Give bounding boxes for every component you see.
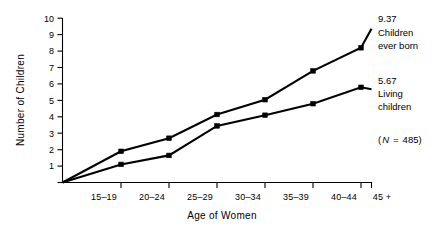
y-tick-label-6: 6 [49,79,54,89]
series-line-living-children [63,87,372,182]
note-symbol-n: N [382,134,389,145]
note-value: 485 [403,134,419,145]
x-axis-category-labels: 15–19 20–24 25–29 30–34 35–39 40–44 45 + [91,192,391,202]
data-point-ceb-35-39 [311,69,316,74]
y-tick-label-1: 1 [49,161,54,171]
x-label-40-44: 40–44 [331,192,357,202]
data-point-ceb-30-34 [263,97,268,102]
data-point-lc-15-19 [119,162,124,167]
annotation-label-lc-line2: children [378,101,411,112]
line-chart-svg: 1 2 3 4 5 6 7 8 9 10 Number of Children … [0,0,447,228]
annotation-label-ceb-line2: ever born [378,40,418,51]
note-close-paren: ) [418,134,421,145]
svg-text:(N=485): (N=485) [378,134,422,145]
data-point-ceb-40-44 [359,46,364,51]
data-point-lc-25-29 [215,124,220,129]
data-point-ceb-20-24 [167,136,172,141]
data-point-lc-30-34 [263,113,268,118]
annotation-label-ceb-line1: Children [378,27,413,38]
y-tick-label-2: 2 [49,145,54,155]
y-tick-label-3: 3 [49,129,54,139]
chart-figure: 1 2 3 4 5 6 7 8 9 10 Number of Children … [0,0,447,228]
series-markers-living-children [119,85,364,167]
y-tick-label-9: 9 [49,30,54,40]
data-point-lc-20-24 [167,153,172,158]
x-label-30-34: 30–34 [235,192,261,202]
series-line-children-ever-born [63,29,372,183]
x-label-15-19: 15–19 [91,192,117,202]
x-label-20-24: 20–24 [139,192,165,202]
annotation-label-lc-line1: Living [378,88,403,99]
annotation-value-lc: 5.67 [378,75,397,86]
y-tick-label-8: 8 [49,46,54,56]
x-label-25-29: 25–29 [187,192,213,202]
data-point-ceb-15-19 [119,149,124,154]
x-label-45-plus: 45 + [373,192,392,202]
annotation-value-ceb: 9.37 [378,13,397,24]
sample-size-note: (N=485) [378,134,422,145]
y-tick-label-10: 10 [44,14,54,24]
x-label-35-39: 35–39 [283,192,309,202]
note-equals: = [393,134,399,145]
annotation-children-ever-born: 9.37 Children ever born [378,13,418,51]
data-point-lc-40-44 [359,85,364,90]
annotation-living-children: 5.67 Living children [378,75,411,112]
data-point-lc-35-39 [311,101,316,106]
x-axis-ticks [121,183,372,189]
y-tick-label-5: 5 [49,96,54,106]
y-axis-title: Number of Children [15,54,26,146]
y-tick-label-4: 4 [49,112,54,122]
x-axis-title: Age of Women [187,210,257,221]
y-tick-label-7: 7 [49,63,54,73]
y-axis-tick-labels: 1 2 3 4 5 6 7 8 9 10 [44,14,54,172]
data-point-ceb-25-29 [215,112,220,117]
y-axis-ticks [58,18,63,182]
